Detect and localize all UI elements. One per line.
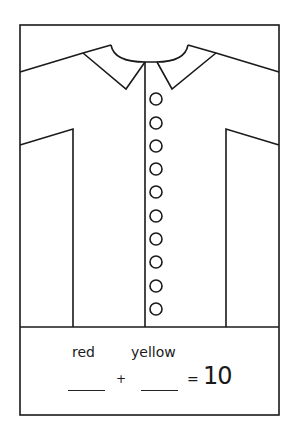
shirt-drawing: [0, 0, 292, 437]
buttons: [150, 93, 162, 315]
answer-blank-yellow[interactable]: [141, 390, 178, 391]
label-red: red: [72, 344, 95, 360]
plus-sign: +: [116, 372, 126, 386]
label-yellow: yellow: [131, 344, 176, 360]
left-sleeve: [20, 129, 73, 327]
right-sleeve: [226, 129, 279, 327]
left-shoulder: [20, 45, 111, 72]
neckline: [111, 45, 188, 62]
equals-sign: =: [187, 371, 199, 387]
left-collar: [83, 53, 145, 89]
total-value: 10: [203, 362, 232, 390]
right-shoulder: [188, 45, 279, 72]
right-collar: [157, 53, 216, 89]
answer-blank-red[interactable]: [68, 390, 105, 391]
